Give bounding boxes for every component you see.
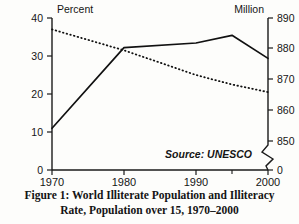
left-tick-label-0: 0 [37, 164, 43, 176]
caption-line-1: Figure 1: World Illiterate Population an… [0, 188, 299, 203]
left-axis-title: Percent [57, 3, 93, 15]
figure-container: 40 30 20 10 0 890 880 870 860 850 0 [0, 0, 299, 224]
right-tick-label-880: 880 [277, 42, 295, 54]
right-tick-label-890: 890 [277, 12, 295, 24]
left-tick-label-40: 40 [31, 12, 43, 24]
chart-plot-area: 40 30 20 10 0 890 880 870 860 850 0 [0, 0, 299, 188]
x-tick-label-1990: 1990 [184, 176, 208, 188]
left-tick-label-30: 30 [31, 50, 43, 62]
series-illiteracy-rate [52, 29, 268, 92]
series-illiterate-population [52, 35, 268, 128]
right-tick-label-860: 860 [277, 104, 295, 116]
right-tick-label-870: 870 [277, 73, 295, 85]
caption-line-2: Rate, Population over 15, 1970–2000 [0, 203, 299, 218]
figure-caption: Figure 1: World Illiterate Population an… [0, 188, 299, 217]
x-tick-label-2000: 2000 [256, 176, 280, 188]
x-tick-label-1970: 1970 [40, 176, 64, 188]
x-tick-label-1980: 1980 [112, 176, 136, 188]
right-tick-label-850: 850 [277, 135, 295, 147]
left-tick-label-10: 10 [31, 126, 43, 138]
source-note: Source: UNESCO [165, 148, 252, 160]
chart-svg: 40 30 20 10 0 890 880 870 860 850 0 [0, 0, 299, 188]
right-tick-label-0: 0 [277, 164, 283, 176]
left-tick-label-20: 20 [31, 88, 43, 100]
right-axis-title: Million [234, 3, 264, 15]
right-axis-line [262, 18, 273, 170]
